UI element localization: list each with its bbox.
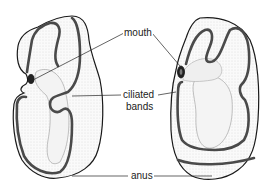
label-ciliated: ciliated bbox=[122, 89, 155, 100]
mouth-left bbox=[28, 75, 34, 84]
diagram-canvas: mouth ciliated bands anus bbox=[0, 0, 266, 192]
label-mouth: mouth bbox=[123, 27, 153, 38]
larva-left bbox=[13, 16, 103, 178]
label-anus: anus bbox=[130, 170, 154, 181]
larva-right bbox=[171, 18, 259, 180]
label-bands: bands bbox=[125, 101, 154, 112]
